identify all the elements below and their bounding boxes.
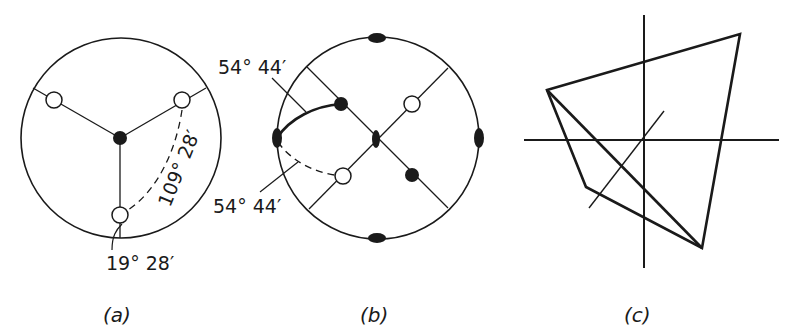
trace-upper-left: [33, 88, 120, 138]
label-19-28: 19° 28′: [106, 252, 174, 274]
filled-pole-center: [113, 131, 127, 145]
filled-pole-lower-right: [405, 168, 419, 182]
open-pole-upper-left: [46, 92, 62, 108]
open-pole-upper-right: [404, 96, 420, 112]
twofold-left: [272, 128, 282, 148]
solid-arc: [277, 104, 341, 138]
open-pole-lower: [112, 207, 128, 223]
twofold-center: [372, 130, 380, 148]
label-54-44-lower: 54° 44′: [213, 195, 281, 217]
twofold-right: [474, 128, 484, 148]
label-54-44-upper: 54° 44′: [218, 56, 286, 78]
caption-a: (a): [103, 303, 131, 327]
dashed-arc: [278, 142, 343, 176]
leader-54-44-upper: [272, 78, 306, 112]
panel-b: [260, 33, 484, 243]
panel-c: [524, 15, 779, 268]
caption-b: (b): [360, 303, 388, 327]
trace-upper-right: [120, 88, 206, 138]
twofold-top: [368, 33, 386, 43]
open-pole-upper-right: [174, 92, 190, 108]
figure-canvas: 109° 28′ 19° 28′ (a) 54° 44′ 54° 44′ (b): [0, 0, 798, 336]
twofold-bottom: [368, 233, 386, 243]
label-109-28: 109° 28′: [153, 127, 203, 210]
leader-54-44-lower: [260, 162, 298, 192]
tetrahedron-edge-diagonal: [547, 90, 702, 248]
open-pole-lower-left: [335, 168, 351, 184]
filled-pole-upper-left: [334, 97, 348, 111]
caption-c: (c): [624, 303, 651, 327]
